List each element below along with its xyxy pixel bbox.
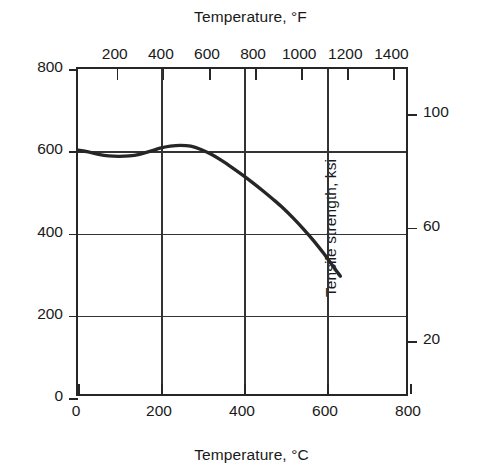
tick-mark-left [69,234,78,236]
chart-figure: Temperature, °F Temperature, °C Tensile … [0,0,487,474]
tick-mark-right [406,228,417,230]
tick-mark-bottom [410,384,412,394]
tick-label-top: 600 [194,45,220,63]
tick-label-top: 800 [240,45,266,63]
tick-label-left: 400 [37,223,63,241]
tick-label-left: 0 [54,387,63,405]
tick-label-top: 200 [102,45,128,63]
tick-label-top: 400 [148,45,174,63]
tick-label-bottom: 0 [72,402,81,420]
tick-label-top: 1400 [374,45,408,63]
tick-mark-left [69,316,78,318]
tick-label-right: 20 [423,330,440,348]
tick-label-top: 1000 [282,45,316,63]
top-axis-title: Temperature, °F [0,8,487,26]
tick-mark-left [69,151,78,153]
tick-label-right: 60 [423,217,440,235]
tick-label-top: 1200 [328,45,362,63]
tick-label-right: 100 [423,103,449,121]
tick-label-left: 800 [37,58,63,76]
tick-mark-right [406,341,417,343]
tick-label-bottom: 800 [395,402,421,420]
tick-label-left: 600 [37,140,63,158]
tick-label-bottom: 400 [229,402,255,420]
tick-mark-left [69,398,78,400]
tick-label-left: 200 [37,305,63,323]
data-curve-layer [78,69,406,394]
tick-label-bottom: 600 [312,402,338,420]
plot-area [76,67,408,396]
tensile-strength-curve [78,145,340,276]
bottom-axis-title: Temperature, °C [0,446,487,464]
tick-mark-right [406,114,417,116]
tick-mark-left [69,69,78,71]
tick-label-bottom: 200 [146,402,172,420]
